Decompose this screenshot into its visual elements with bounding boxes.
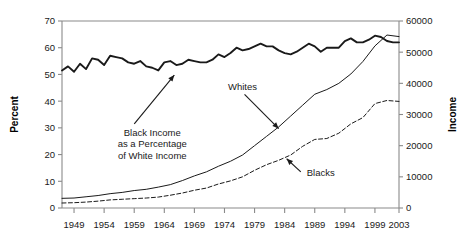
y-tick-label-right: 0 <box>406 202 411 213</box>
y-tick-label-left: 30 <box>44 122 55 133</box>
x-tick-label: 1964 <box>154 219 175 230</box>
ratio-annotation-line: of White Income <box>118 150 187 161</box>
ratio-annotation-line: as a Percentage <box>118 138 187 149</box>
series-line-whites <box>62 35 399 198</box>
y-tick-label-right: 60000 <box>406 15 432 26</box>
x-tick-label: 1949 <box>63 219 84 230</box>
ratio-annotation-leader <box>134 75 174 124</box>
whites-annotation-label: Whites <box>228 81 257 92</box>
whites-annotation-leader <box>245 94 279 128</box>
y-tick-label-right: 40000 <box>406 78 432 89</box>
series-line-blacks <box>62 100 399 203</box>
y-axis-title-percent: Percent <box>9 95 20 132</box>
series-line-black-income-as-a-percentage-of-white-income <box>62 36 399 72</box>
y-tick-label-left: 20 <box>44 149 55 160</box>
ratio-annotation-line: Black Income <box>124 127 181 138</box>
y-tick-label-left: 70 <box>44 15 55 26</box>
x-tick-label: 1959 <box>124 219 145 230</box>
x-tick-label: 1969 <box>184 219 205 230</box>
y-tick-label-right: 30000 <box>406 109 432 120</box>
x-tick-label: 1989 <box>304 219 325 230</box>
x-tick-label: 1984 <box>274 219 295 230</box>
y-axis-title-income: Income <box>447 97 458 132</box>
y-tick-label-right: 10000 <box>406 171 432 182</box>
y-tick-label-left: 40 <box>44 96 55 107</box>
x-tick-label: 1994 <box>334 219 355 230</box>
y-tick-label-right: 50000 <box>406 47 432 58</box>
x-tick-label: 1974 <box>214 219 235 230</box>
x-tick-label: 1979 <box>244 219 265 230</box>
blacks-annotation-label: Blacks <box>307 167 335 178</box>
y-tick-label-left: 50 <box>44 69 55 80</box>
x-tick-label: 1999 <box>364 219 385 230</box>
y-tick-label-right: 20000 <box>406 140 432 151</box>
x-tick-label: 2003 <box>388 219 409 230</box>
chart-container: 0102030405060700100002000030000400005000… <box>0 0 469 251</box>
x-tick-label: 1954 <box>94 219 115 230</box>
income-ratio-line-chart: 0102030405060700100002000030000400005000… <box>0 0 469 251</box>
y-tick-label-left: 0 <box>50 202 55 213</box>
y-tick-label-left: 60 <box>44 42 55 53</box>
y-tick-label-left: 10 <box>44 176 55 187</box>
